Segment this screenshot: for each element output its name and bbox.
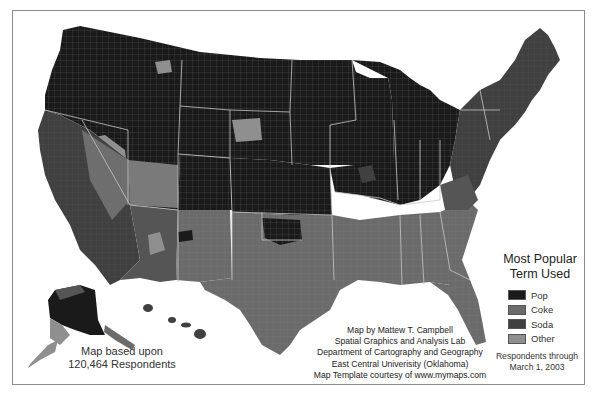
legend: Most Popular Term Used Pop Coke Soda Oth… (496, 252, 584, 346)
legend-label: Coke (531, 304, 553, 315)
legend-title-line1: Most Popular (496, 252, 584, 267)
date-line: March 1, 2003 (494, 362, 580, 373)
credits: Map by Mattew T. Campbell Spatial Graphi… (300, 325, 500, 381)
legend-item-other: Other (508, 332, 584, 347)
region-newmexico-pop-pocket (178, 230, 193, 242)
swatch-other (508, 334, 526, 344)
region-central-plains-pop (230, 158, 332, 215)
respondents-line: 120,464 Respondents (52, 358, 192, 371)
swatch-coke (508, 305, 526, 315)
legend-item-soda: Soda (508, 317, 584, 332)
region-mountain-other-2 (128, 160, 178, 208)
respondent-count-note: Map based upon 120,464 Respondents (52, 345, 192, 371)
credits-line: East Central Univerisity (Oklahoma) (300, 359, 500, 370)
respondents-line: Map based upon (52, 345, 192, 358)
region-newmexico-coke (176, 210, 232, 282)
credits-line: Spatial Graphics and Analysis Lab (300, 336, 500, 347)
credits-line: Map Template courtesy of www.mymaps.com (300, 370, 500, 381)
legend-label: Other (531, 333, 555, 344)
date-note: Respondents through March 1, 2003 (494, 351, 580, 373)
region-northeast-soda (450, 28, 560, 200)
region-mountain-other-3 (232, 118, 262, 142)
region-mountain-other-4 (155, 60, 172, 74)
region-hawaii (143, 304, 206, 339)
date-line: Respondents through (494, 351, 580, 362)
swatch-pop (508, 290, 526, 300)
swatch-soda (508, 319, 526, 329)
credits-line: Department of Cartography and Geography (300, 347, 500, 358)
region-colorado-pop (178, 154, 232, 210)
legend-item-coke: Coke (508, 303, 584, 318)
legend-title-line2: Term Used (496, 267, 584, 282)
credits-line: Map by Mattew T. Campbell (300, 325, 500, 336)
legend-label: Soda (531, 319, 553, 330)
legend-label: Pop (531, 290, 548, 301)
legend-item-pop: Pop (508, 288, 584, 303)
